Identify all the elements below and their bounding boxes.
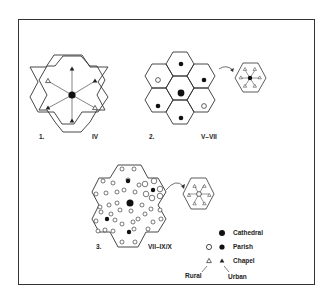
panel-1-number: 1. — [39, 133, 44, 140]
urban-chapel-legend-icon — [220, 258, 225, 262]
rural-chapel-icon — [93, 105, 98, 109]
rural-parish-icon — [197, 192, 202, 197]
legend-symbols — [202, 230, 229, 272]
legend-parish-label: Parish — [233, 243, 253, 250]
urban-parish-icon — [202, 78, 207, 83]
urban-chapel-icon — [93, 78, 98, 82]
urban-parish-icon — [248, 76, 252, 80]
urban-parish-icon — [105, 217, 109, 221]
urban-parish-icon — [151, 188, 155, 192]
panel-2-symbols — [156, 62, 207, 121]
panel-2-number: 2. — [149, 133, 154, 140]
panel-1-symbols — [46, 66, 98, 122]
cathedral-symbol — [127, 200, 134, 207]
urban-chapel-icon — [70, 66, 75, 70]
panel-3-inset — [183, 178, 214, 209]
panel-3-arrow — [166, 183, 185, 190]
diagram-canvas — [0, 0, 333, 296]
rural-parish-icon — [156, 78, 161, 83]
cathedral-symbol — [68, 91, 75, 98]
panel-2-period: V–VII — [201, 133, 217, 140]
legend-cathedral-label: Cathedral — [233, 229, 263, 236]
cathedral-legend-icon — [219, 230, 225, 236]
panel-2-arrow — [219, 67, 234, 72]
rural-parish-icon — [202, 104, 207, 109]
urban-chapel-icon — [46, 105, 51, 109]
urban-parish-icon — [156, 104, 161, 109]
legend-rural-label: Rural — [185, 272, 202, 279]
panel-3-period: VII–IX/X — [148, 243, 172, 250]
panel-2-inset — [235, 63, 266, 92]
legend-urban-label: Urban — [228, 273, 247, 280]
panel-3-number: 3. — [96, 243, 101, 250]
urban-chapel-icon — [70, 118, 75, 122]
legend-chapel-label: Chapel — [233, 257, 255, 264]
urban-parish-legend-icon — [219, 244, 224, 249]
urban-parish-icon — [127, 230, 131, 234]
panel-1-period: IV — [92, 133, 98, 140]
urban-parish-icon — [179, 62, 184, 67]
rural-parish-legend-icon — [206, 244, 211, 249]
rural-chapel-icon — [46, 78, 51, 82]
urban-parish-icon — [179, 116, 184, 121]
urban-parish-icon — [126, 179, 130, 183]
rural-chapel-legend-icon — [207, 258, 212, 262]
panel-3-symbols — [105, 179, 155, 234]
cathedral-symbol — [178, 90, 185, 97]
